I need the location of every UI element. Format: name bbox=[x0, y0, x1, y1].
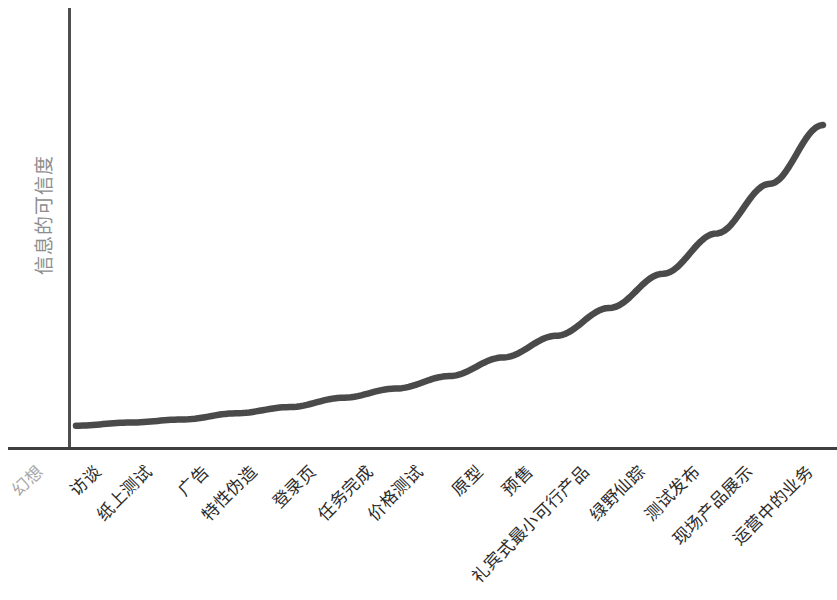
x-tick-label: 幻想 bbox=[5, 458, 47, 500]
y-axis-line bbox=[68, 8, 71, 450]
x-tick-label: 原型 bbox=[445, 458, 487, 500]
x-axis-line bbox=[8, 447, 837, 450]
chart-canvas: 信息的可信度 幻想访谈纸上测试广告特性伪造登录页任务完成价格测试原型预售礼宾式最… bbox=[0, 0, 837, 600]
curve-path bbox=[76, 125, 823, 426]
x-tick-label: 纸上测试 bbox=[90, 458, 157, 525]
y-axis-title: 信息的可信度 bbox=[29, 155, 56, 275]
x-axis-tick-labels: 幻想访谈纸上测试广告特性伪造登录页任务完成价格测试原型预售礼宾式最小可行产品绿野… bbox=[0, 452, 837, 600]
x-tick-label: 绿野仙踪 bbox=[583, 458, 650, 525]
x-tick-label: 预售 bbox=[495, 458, 537, 500]
x-tick-label: 访谈 bbox=[63, 458, 105, 500]
